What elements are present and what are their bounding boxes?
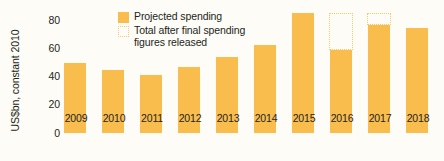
y-tick-60: 60 [36,43,60,53]
legend-label-projected-spending: Projected spending [134,11,222,23]
x-axis-baseline [62,133,444,134]
x-tick-2015: 2015 [285,112,323,124]
bar-projected-2011 [140,75,162,133]
legend-swatch-dotted-icon [118,26,129,37]
bar-chart: US$bn, constant 2010 80 60 40 20 0 2009 … [0,0,444,161]
x-tick-2014: 2014 [247,112,285,124]
bar-group-2018: 2018 [404,0,442,133]
legend-swatch-solid-icon [118,12,129,23]
bar-final-total-2017 [367,13,391,24]
legend-item-final-total: Total after final spending figures relea… [118,25,278,48]
bar-final-total-2016 [329,13,353,50]
x-tick-2012: 2012 [171,112,209,124]
y-axis-ticks: 80 60 40 20 0 [22,0,60,161]
x-tick-2018: 2018 [399,112,437,124]
x-tick-2011: 2011 [133,112,171,124]
legend-label-final-total: Total after final spending figures relea… [134,25,245,48]
x-tick-2016: 2016 [323,112,361,124]
x-tick-2010: 2010 [95,112,133,124]
x-tick-2009: 2009 [57,112,95,124]
x-tick-2017: 2017 [361,112,399,124]
legend-item-projected-spending: Projected spending [118,11,278,23]
y-tick-80: 80 [36,15,60,25]
y-tick-20: 20 [36,99,60,109]
y-tick-0: 0 [36,128,60,138]
y-tick-40: 40 [36,71,60,81]
chart-legend: Projected spending Total after final spe… [118,11,278,50]
x-tick-2013: 2013 [209,112,247,124]
